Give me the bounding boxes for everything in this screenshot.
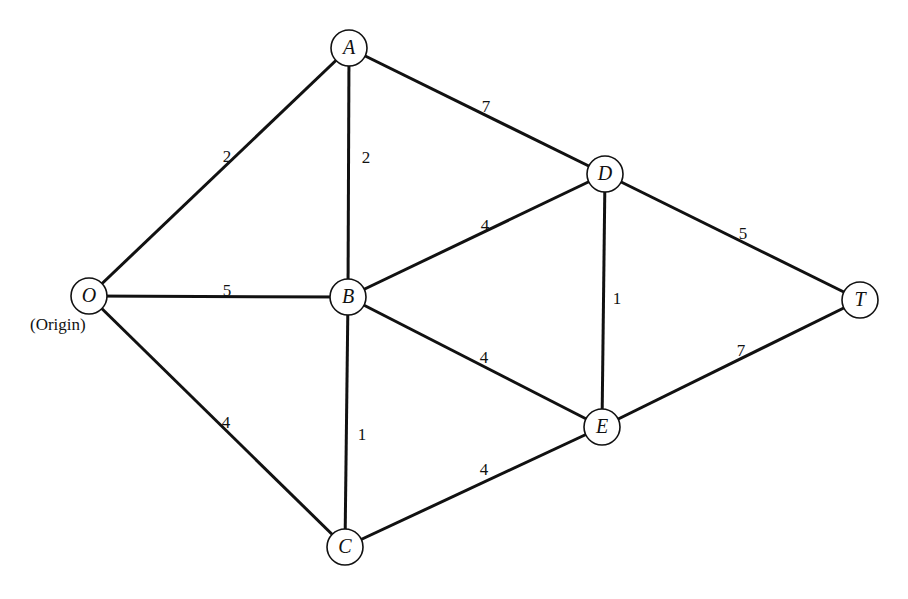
- edge-weight-b-c: 1: [358, 425, 367, 444]
- node-label: D: [597, 162, 613, 184]
- edge-weight-b-d: 4: [481, 216, 490, 235]
- edge-o-c: [89, 296, 345, 547]
- edge-weight-o-c: 4: [222, 413, 231, 432]
- edge-o-b: [89, 296, 348, 297]
- node-label: C: [338, 535, 352, 557]
- origin-annotation: (Origin): [30, 315, 86, 334]
- edge-weight-a-b: 2: [362, 148, 371, 167]
- edge-weight-d-t: 5: [739, 224, 748, 243]
- edge-o-a: [89, 48, 349, 296]
- node-label: T: [854, 288, 867, 310]
- node-e: E: [584, 409, 620, 445]
- edge-weight-a-d: 7: [482, 97, 491, 116]
- edge-e-t: [602, 300, 860, 427]
- edge-weight-d-e: 1: [613, 289, 622, 308]
- node-t: T: [842, 282, 878, 318]
- edge-weight-c-e: 4: [480, 460, 489, 479]
- edge-d-e: [602, 174, 605, 427]
- edge-b-d: [348, 174, 605, 297]
- node-b: B: [330, 279, 366, 315]
- node-label: B: [342, 285, 354, 307]
- edge-weight-o-b: 5: [223, 281, 232, 300]
- edge-a-d: [349, 48, 605, 174]
- edge-weight-b-e: 4: [480, 348, 489, 367]
- node-label: O: [82, 284, 96, 306]
- network-graph: 254274414157 OABCDET (Origin): [0, 0, 908, 599]
- node-c: C: [327, 529, 363, 565]
- node-label: E: [595, 415, 608, 437]
- edge-a-b: [348, 48, 349, 297]
- node-d: D: [587, 156, 623, 192]
- node-label: A: [341, 36, 356, 58]
- edge-d-t: [605, 174, 860, 300]
- node-a: A: [331, 30, 367, 66]
- edge-b-e: [348, 297, 602, 427]
- edge-weight-e-t: 7: [737, 341, 746, 360]
- node-o: O: [71, 278, 107, 314]
- edge-weights-layer: 254274414157: [222, 97, 748, 479]
- edge-b-c: [345, 297, 348, 547]
- edge-c-e: [345, 427, 602, 547]
- edges-layer: [89, 48, 860, 547]
- edge-weight-o-a: 2: [223, 147, 232, 166]
